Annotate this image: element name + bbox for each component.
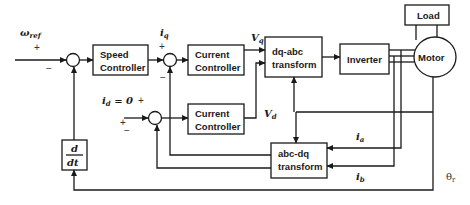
- id-ref-label: id = 0: [102, 95, 133, 108]
- ia-label: ia: [356, 131, 365, 144]
- current-controller-q-block: Current Controller: [188, 45, 244, 75]
- motor-block: Motor: [414, 37, 456, 77]
- derivative-numerator: d: [71, 143, 78, 154]
- dq-abc-label-2: transform: [272, 59, 316, 70]
- vd-label: Vd: [264, 108, 277, 121]
- vd-arrow: [244, 63, 265, 118]
- omega-feedback-minus: −: [46, 63, 52, 74]
- current-controller-q-label-2: Controller: [195, 62, 241, 73]
- derivative-block: d dt: [62, 140, 87, 170]
- current-controller-d-block: Current Controller: [188, 104, 244, 134]
- speed-controller-block: Speed Controller: [93, 45, 148, 75]
- id-ref-plus: +: [138, 95, 144, 106]
- current-controller-d-label-2: Controller: [195, 121, 241, 132]
- speed-controller-label-2: Controller: [100, 62, 146, 73]
- speed-summing-junction: [67, 54, 80, 67]
- theta-r-label: θr: [446, 171, 456, 184]
- dq-abc-label-1: dq-abc: [272, 46, 303, 57]
- ib-label: ib: [356, 171, 365, 184]
- motor-label: Motor: [418, 52, 445, 63]
- inverter-label: Inverter: [347, 54, 382, 65]
- dq-abc-transform-block: dq-abc transform: [265, 37, 322, 77]
- abc-dq-label-1: abc-dq: [278, 148, 309, 159]
- derivative-denominator: dt: [67, 157, 79, 168]
- id-summing-junction: [149, 112, 162, 125]
- iq-summing-junction: [164, 54, 177, 67]
- omega-ref-label: ωref: [20, 27, 43, 40]
- omega-ref-plus: +: [34, 42, 40, 53]
- abc-dq-label-2: transform: [278, 161, 322, 172]
- iq-plus: +: [159, 41, 165, 52]
- vq-label: Vq: [251, 32, 264, 45]
- iq-minus: −: [160, 72, 166, 83]
- speed-controller-label-1: Speed: [100, 49, 129, 60]
- load-block: Load: [405, 5, 449, 25]
- load-label: Load: [417, 10, 440, 21]
- current-controller-q-label-1: Current: [195, 49, 230, 60]
- block-diagram: Speed Controller Current Controller Curr…: [0, 0, 470, 205]
- id-minus: −: [124, 125, 130, 136]
- iq-label: iq: [160, 27, 169, 40]
- inverter-block: Inverter: [340, 44, 389, 74]
- current-controller-d-label-1: Current: [195, 108, 230, 119]
- abc-dq-transform-block: abc-dq transform: [271, 143, 327, 178]
